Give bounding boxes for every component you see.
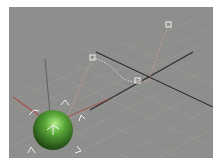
3d-viewport-perspective[interactable] xyxy=(9,7,213,158)
keyframe-markers[interactable] xyxy=(90,22,171,83)
scene-canvas[interactable] xyxy=(9,7,213,158)
